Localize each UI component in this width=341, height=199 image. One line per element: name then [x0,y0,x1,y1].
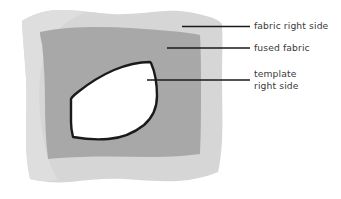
callout-label-template-right-side-line-2: right side [254,80,299,92]
callout-label-fused-fabric: fused fabric [254,42,310,54]
callout-label-template-right-side-line-1: template [254,68,299,80]
callout-label-fabric-right-side: fabric right side [254,20,328,32]
callout-label-template-right-side: template right side [254,68,299,93]
callout-label-fabric-right-side-line-1: fabric right side [254,20,328,32]
fabric-fusing-diagram: fabric right side fused fabric template … [0,0,341,199]
callout-label-fused-fabric-line-1: fused fabric [254,42,310,54]
